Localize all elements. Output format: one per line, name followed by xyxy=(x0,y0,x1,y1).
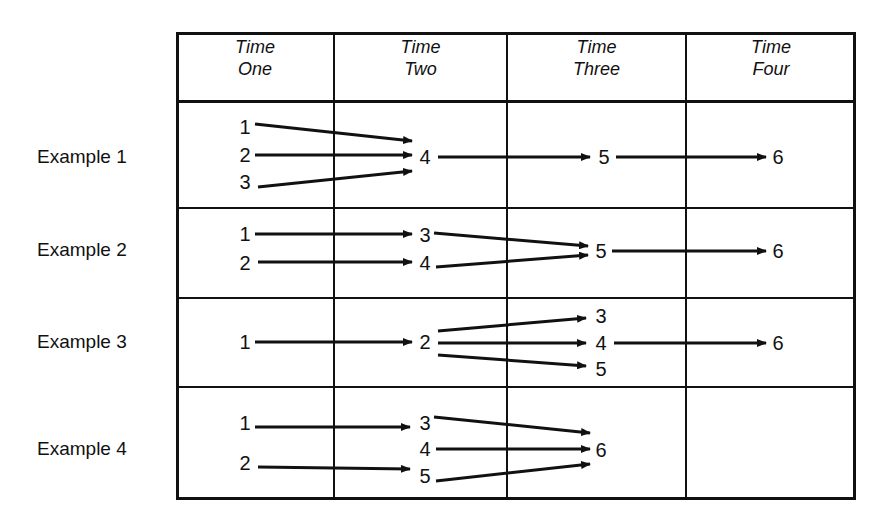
node-ex1-t1-1: 1 xyxy=(237,117,253,137)
node-ex3-t1-1: 1 xyxy=(237,332,253,352)
node-ex3-t4-6: 6 xyxy=(770,333,786,353)
node-ex4-t2-5: 5 xyxy=(417,466,433,486)
arrow-ex4-3-6 xyxy=(434,417,590,433)
node-ex4-t1-2: 2 xyxy=(237,453,253,473)
arrows-layer xyxy=(0,0,890,521)
arrow-ex2-3-5 xyxy=(434,233,588,246)
arrow-ex1-1-4 xyxy=(255,124,412,141)
node-ex3-t3-3: 3 xyxy=(593,306,609,326)
node-ex4-t3-6: 6 xyxy=(593,440,609,460)
node-ex2-t2-3: 3 xyxy=(417,225,433,245)
arrow-ex3-2-5 xyxy=(438,355,586,366)
node-ex4-t2-4: 4 xyxy=(417,439,433,459)
arrow-ex2-4-5 xyxy=(436,255,588,267)
node-ex1-t4-6: 6 xyxy=(770,147,786,167)
node-ex1-t3-5: 5 xyxy=(596,147,612,167)
arrow-ex4-2-5 xyxy=(258,467,410,469)
node-ex2-t1-2: 2 xyxy=(237,253,253,273)
node-ex1-t1-2: 2 xyxy=(237,145,253,165)
node-ex3-t3-4: 4 xyxy=(593,333,609,353)
node-ex1-t1-3: 3 xyxy=(237,172,253,192)
node-ex4-t1-1: 1 xyxy=(237,413,253,433)
node-ex3-t3-5: 5 xyxy=(593,359,609,379)
node-ex2-t4-6: 6 xyxy=(770,241,786,261)
node-ex2-t2-4: 4 xyxy=(417,253,433,273)
arrow-ex1-3-4 xyxy=(258,171,412,187)
node-ex1-t2-4: 4 xyxy=(417,147,433,167)
arrow-ex3-2-3 xyxy=(438,318,586,331)
node-ex3-t2-2: 2 xyxy=(417,332,433,352)
node-ex2-t3-5: 5 xyxy=(593,241,609,261)
arrow-ex4-5-6 xyxy=(436,464,590,481)
node-ex4-t2-3: 3 xyxy=(417,413,433,433)
node-ex2-t1-1: 1 xyxy=(237,224,253,244)
